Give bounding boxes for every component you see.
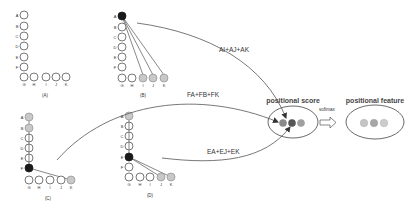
feature-title: positional feature	[346, 97, 404, 105]
node-g	[25, 176, 33, 184]
node-k	[167, 173, 175, 181]
node-b	[118, 23, 126, 31]
label-d: D	[121, 144, 124, 149]
node-f	[125, 163, 133, 171]
node-c	[118, 33, 126, 41]
score-dot-1	[279, 119, 287, 127]
node-k	[62, 73, 70, 81]
softmax-step: softmax	[319, 107, 336, 128]
label-k: K	[170, 182, 173, 187]
label-b: B	[121, 124, 124, 129]
panel-a-caption: (A)	[42, 93, 49, 98]
label-e: E	[21, 156, 24, 161]
edge-a-k	[122, 16, 164, 75]
node-f	[20, 63, 28, 71]
label-h: H	[139, 182, 142, 187]
node-g	[20, 73, 28, 81]
label-k: K	[65, 82, 68, 87]
label-a: A	[16, 13, 19, 18]
label-i: I	[45, 82, 46, 87]
node-i	[46, 176, 54, 184]
curve-d-to-score	[162, 127, 290, 161]
node-a	[25, 113, 33, 121]
softmax-label: softmax	[319, 107, 336, 112]
panel-b: A B C D E F G H I J K (B)	[114, 12, 168, 98]
label-a: A	[21, 115, 24, 120]
node-d	[20, 42, 28, 50]
node-f	[118, 63, 126, 71]
node-i	[42, 73, 50, 81]
label-h: H	[38, 185, 41, 190]
node-e	[125, 153, 133, 161]
node-j	[149, 74, 157, 82]
panel-a-row	[20, 73, 70, 81]
label-j: J	[160, 182, 162, 187]
feature-dot-3	[380, 119, 388, 127]
label-k: K	[70, 185, 73, 190]
positional-attention-diagram: A B C D E F G H I J K (A) A B C D E F G …	[0, 0, 417, 209]
node-e	[20, 53, 28, 61]
feature-dot-2	[370, 119, 378, 127]
label-i: I	[149, 182, 150, 187]
node-c	[20, 32, 28, 40]
label-j: J	[152, 83, 154, 88]
node-h	[35, 176, 43, 184]
label-a: A	[114, 14, 117, 19]
label-d: D	[21, 146, 24, 151]
node-b	[25, 124, 33, 132]
panel-a-column	[20, 11, 28, 71]
node-a	[118, 12, 126, 20]
label-c: C	[121, 134, 124, 139]
score-dot-2	[288, 119, 296, 127]
label-g: G	[22, 82, 25, 87]
node-b	[20, 22, 28, 30]
label-k: K	[163, 83, 166, 88]
label-g: G	[127, 182, 130, 187]
node-h	[136, 173, 144, 181]
label-g: G	[27, 185, 30, 190]
label-f: F	[21, 166, 24, 171]
panel-c-caption: (C)	[45, 196, 52, 201]
label-b: B	[114, 25, 117, 30]
node-i	[139, 74, 147, 82]
edge-e-j	[129, 157, 161, 177]
curve-b-to-score	[137, 23, 286, 118]
node-h	[30, 73, 38, 81]
node-h	[128, 74, 136, 82]
label-c: C	[114, 35, 117, 40]
edge-label-c: FA+FB+FK	[187, 91, 220, 98]
panel-d-caption: (D)	[147, 193, 154, 198]
edge-label-b: AI+AJ+AK	[219, 46, 250, 53]
edge-label-d: EA+EJ+EK	[207, 148, 240, 155]
hollow-arrow-icon	[320, 117, 336, 128]
label-e: E	[121, 155, 124, 160]
node-j	[52, 73, 60, 81]
node-k	[67, 176, 75, 184]
node-g	[125, 173, 133, 181]
panel-a: A B C D E F G H I J K (A)	[16, 11, 70, 98]
label-f: F	[114, 65, 117, 70]
node-j	[157, 173, 165, 181]
curve-c-to-score	[57, 104, 278, 160]
panel-d: A B C D E F G H I J K (D)	[121, 112, 175, 198]
label-e: E	[16, 55, 19, 60]
label-c: C	[16, 34, 19, 39]
node-d	[118, 43, 126, 51]
node-g	[118, 74, 126, 82]
node-i	[146, 173, 154, 181]
node-a	[20, 11, 28, 19]
positional-score: positional score	[266, 97, 320, 138]
node-k	[160, 74, 168, 82]
label-f: F	[121, 165, 124, 170]
label-h: H	[33, 82, 36, 87]
score-title: positional score	[266, 97, 320, 105]
label-d: D	[114, 45, 117, 50]
feature-dot-1	[360, 119, 368, 127]
label-g: G	[120, 83, 123, 88]
node-e	[118, 53, 126, 61]
score-dot-3	[297, 119, 305, 127]
label-d: D	[16, 44, 19, 49]
label-j: J	[60, 185, 62, 190]
label-c: C	[21, 136, 24, 141]
label-e: E	[114, 55, 117, 60]
